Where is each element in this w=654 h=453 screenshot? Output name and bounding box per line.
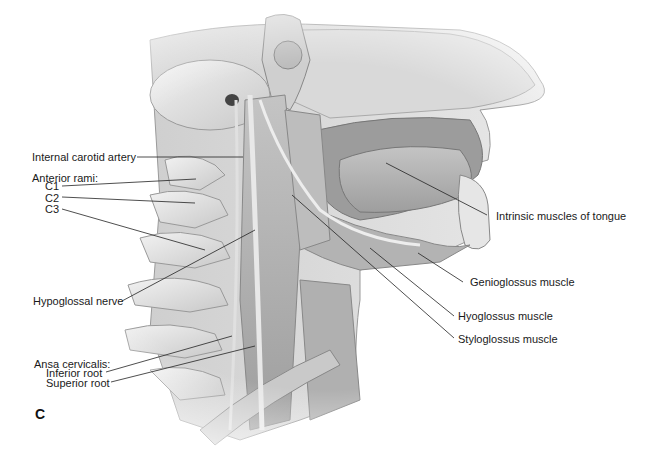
- label-anterior-rami: Anterior rami:: [32, 172, 98, 184]
- label-hyoglossus: Hyoglossus muscle: [458, 310, 553, 322]
- label-styloglossus: Styloglossus muscle: [458, 333, 558, 345]
- label-genioglossus: Genioglossus muscle: [470, 276, 575, 288]
- label-internal-carotid-artery: Internal carotid artery: [32, 151, 136, 163]
- label-c1: C1: [45, 180, 59, 192]
- label-superior-root: Superior root: [46, 377, 110, 389]
- label-intrinsic-muscles: Intrinsic muscles of tongue: [496, 210, 626, 222]
- label-hypoglossal-nerve: Hypoglossal nerve: [33, 295, 124, 307]
- label-c3: C3: [45, 203, 59, 215]
- panel-letter: C: [35, 406, 45, 422]
